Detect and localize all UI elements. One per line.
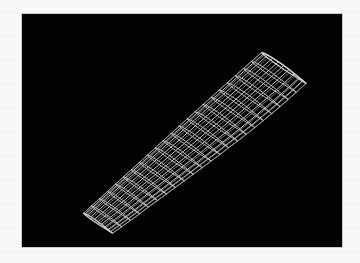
wire-line	[101, 70, 289, 225]
wire-line	[98, 66, 284, 222]
wire-line	[91, 58, 273, 217]
wire-line	[98, 69, 284, 224]
wire-line	[105, 74, 294, 227]
wire-line	[262, 53, 306, 84]
page-background: Swept Aircraft Wing Wireframe	[0, 0, 360, 263]
wire-line	[88, 55, 268, 215]
wire-line	[95, 62, 279, 219]
wire-line	[91, 62, 273, 220]
wire-line	[88, 58, 268, 217]
render-viewport[interactable]	[21, 13, 343, 248]
wireframe-canvas	[22, 14, 342, 247]
wing-wireframe-mesh	[84, 53, 306, 234]
wire-line	[95, 66, 279, 222]
